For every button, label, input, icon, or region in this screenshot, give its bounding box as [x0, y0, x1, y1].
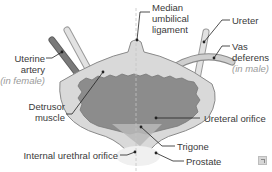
- label-ureteral-orifice: Ureteral orifice: [204, 113, 266, 124]
- label-line: deferens: [232, 52, 269, 63]
- leader-median-umbilical: [137, 12, 150, 40]
- label-detrusor-muscle: Detrusor muscle: [29, 101, 65, 123]
- label-vas-deferens: Vas deferens (in male): [232, 41, 269, 74]
- label-prostate: Prostate: [186, 156, 221, 167]
- label-line: Vas: [232, 41, 269, 52]
- label-uterine-artery: Uterine artery (in female): [0, 53, 45, 86]
- label-line: umbilical: [152, 13, 189, 24]
- label-note: (in female): [0, 75, 45, 86]
- label-note: (in male): [232, 63, 269, 74]
- expand-icon[interactable]: [258, 156, 267, 165]
- prostate-region: [116, 146, 160, 166]
- label-trigone: Trigone: [177, 141, 209, 152]
- label-line: Uterine: [0, 53, 45, 64]
- label-line: artery: [0, 64, 45, 75]
- label-median-umbilical-ligament: Median umbilical ligament: [152, 2, 189, 35]
- label-line: muscle: [29, 112, 65, 123]
- label-line: Detrusor: [29, 101, 65, 112]
- label-line: ligament: [152, 24, 189, 35]
- vas-deferens-tube: [176, 57, 232, 66]
- label-line: Median: [152, 2, 189, 13]
- label-ureter: Ureter: [232, 15, 258, 26]
- label-internal-urethral-orifice: Internal urethral orifice: [23, 150, 118, 161]
- leader-prostate: [156, 153, 184, 161]
